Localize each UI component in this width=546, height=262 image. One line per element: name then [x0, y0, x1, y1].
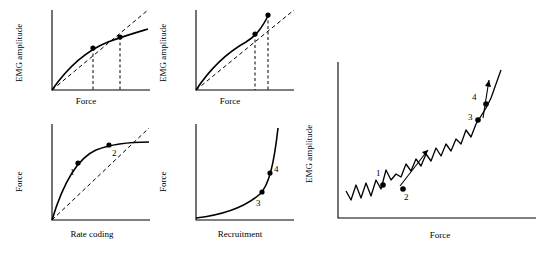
data-point-marker-1: [75, 160, 80, 165]
data-point-marker-2: [106, 142, 111, 147]
panel-right: 1 2 3 4 EMG amplitude Force: [300, 58, 544, 258]
emg-force-curve: [196, 14, 269, 90]
emg-force-curve: [52, 29, 148, 90]
data-point-marker-1: [380, 182, 386, 188]
point-label-1: 1: [70, 167, 75, 177]
x-axis-label-recruitment: Recruitment: [218, 229, 263, 239]
point-label-4: 4: [274, 164, 279, 174]
panel-top-middle: EMG amplitude Force: [152, 4, 302, 112]
x-axis-label-force: Force: [220, 96, 241, 106]
x-axis-label-rate-coding: Rate coding: [70, 229, 114, 239]
axis-lines: [52, 10, 150, 90]
point-label-1: 1: [376, 168, 381, 178]
point-label-4: 4: [472, 92, 477, 102]
point-label-3: 3: [256, 198, 261, 208]
axis-lines: [338, 62, 536, 218]
y-axis-label-force: Force: [158, 172, 168, 193]
data-point-marker-2: [400, 186, 406, 192]
axis-lines: [52, 124, 150, 220]
figure-root: EMG amplitude Force 1 2 Force Rate codin…: [0, 0, 546, 262]
axis-lines: [196, 124, 294, 220]
emg-force-noisy-trace: [346, 70, 501, 200]
data-point-marker-3: [475, 117, 481, 123]
y-axis-label-emg: EMG amplitude: [14, 24, 24, 82]
panel-bottom-left: 1 2 Force Rate coding: [8, 118, 158, 258]
x-axis-label-force: Force: [76, 96, 97, 106]
y-axis-label-force: Force: [14, 172, 24, 193]
data-point-marker-4: [267, 170, 272, 175]
identity-reference-line: [52, 10, 148, 90]
x-axis-label-force: Force: [430, 230, 451, 240]
data-point-marker-3: [259, 189, 264, 194]
panel-bottom-middle: 3 4 Force Recruitment: [152, 118, 302, 258]
point-label-2: 2: [404, 192, 409, 202]
force-recruitment-curve: [196, 128, 278, 218]
identity-reference-line: [196, 10, 294, 90]
force-rate-coding-curve: [52, 142, 149, 220]
panel-top-left: EMG amplitude Force: [8, 4, 158, 112]
point-label-3: 3: [468, 112, 473, 122]
y-axis-label-emg: EMG amplitude: [158, 24, 168, 82]
y-axis-label-emg: EMG amplitude: [304, 125, 314, 183]
point-label-2: 2: [112, 148, 117, 158]
arrow-2-head: [485, 80, 491, 87]
